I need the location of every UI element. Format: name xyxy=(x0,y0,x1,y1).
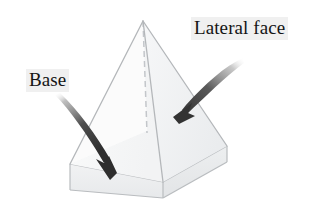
pyramid-body-group xyxy=(70,21,227,182)
base-label: Base xyxy=(26,69,69,92)
lateral-face-label: Lateral face xyxy=(191,17,288,40)
pyramid-figure: Lateral face Base xyxy=(0,0,315,213)
lateral-face-arrow-shaft xyxy=(182,58,244,115)
